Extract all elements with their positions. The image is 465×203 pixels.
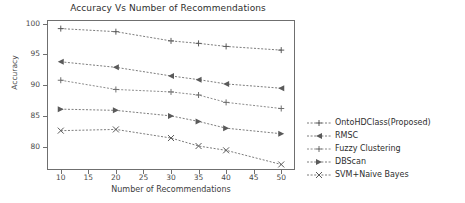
y-tick-label: 95 [16,49,40,58]
y-tick-label: 90 [16,80,40,89]
data-point-plus [278,106,284,112]
x-tick-label: 10 [51,173,71,182]
legend-item-svm-naive-bayes[interactable]: SVM+Naive Bayes [306,169,431,181]
x-tick-mark [226,170,227,174]
legend-label: OntoHDClass(Proposed) [335,117,431,129]
legend-marker-triangle-right [306,156,332,168]
series-line [61,129,281,164]
data-point-x-cross [58,128,64,134]
x-tick-mark [143,170,144,174]
y-tick-label: 85 [16,111,40,120]
data-point-plus [316,146,322,152]
data-point-x-cross [316,172,322,178]
x-tick-mark [116,170,117,174]
x-tick-label: 25 [133,173,153,182]
x-tick-mark [61,170,62,174]
x-tick-mark [281,170,282,174]
x-tick-label: 20 [106,173,126,182]
data-point-plus [278,47,284,53]
legend-label: DBScan [335,156,366,168]
legend-marker-triangle-left [306,130,332,142]
x-tick-label: 50 [271,173,291,182]
data-point-triangle-right [113,107,119,113]
x-tick-label: 35 [189,173,209,182]
x-tick-label: 15 [78,173,98,182]
data-point-triangle-right [278,131,284,137]
data-point-triangle-right [58,106,64,112]
data-point-triangle-right [223,125,229,131]
data-point-plus [168,38,174,44]
data-point-triangle-left [113,64,119,70]
data-point-plus [223,43,229,49]
y-tick-label: 80 [16,142,40,151]
data-point-plus [58,77,64,83]
data-point-triangle-right [316,159,322,165]
legend-item-rmsc[interactable]: RMSC [306,130,431,142]
legend-label: SVM+Naive Bayes [335,169,409,181]
x-tick-mark [88,170,89,174]
data-point-plus [223,99,229,105]
data-point-triangle-left [316,133,322,139]
legend-marker-x-cross [306,169,332,181]
data-point-x-cross [278,161,284,167]
legend-item-dbscan[interactable]: DBScan [306,156,431,168]
x-tick-mark [171,170,172,174]
data-point-x-cross [223,147,229,153]
data-point-triangle-left [223,81,229,87]
chart-legend: OntoHDClass(Proposed)RMSCFuzzy Clusterin… [303,115,434,183]
plot-area [47,20,295,170]
data-point-triangle-right [196,118,202,124]
data-point-plus [113,29,119,35]
data-point-plus [113,86,119,92]
data-point-triangle-left [58,59,64,65]
data-point-triangle-left [168,73,174,79]
data-point-x-cross [113,126,119,132]
chart-screenshot: Accuracy Vs Number of Recommendations Ac… [0,0,465,203]
data-point-triangle-left [196,77,202,83]
legend-label: RMSC [335,130,358,142]
chart-title: Accuracy Vs Number of Recommendations [38,3,298,13]
data-point-triangle-right [168,113,174,119]
x-tick-label: 45 [244,173,264,182]
legend-item-fuzzy-clustering[interactable]: Fuzzy Clustering [306,143,431,155]
y-tick-label: 100 [16,19,40,28]
legend-label: Fuzzy Clustering [335,143,401,155]
data-point-plus [58,26,64,32]
legend-marker-plus [306,143,332,155]
data-point-triangle-left [278,85,284,91]
x-tick-mark [199,170,200,174]
data-point-plus [316,120,322,126]
legend-marker-plus [306,117,332,129]
x-axis-label: Number of Recommendations [47,185,295,194]
data-point-plus [196,40,202,46]
x-tick-label: 30 [161,173,181,182]
series-lines [47,20,295,170]
data-point-plus [196,92,202,98]
x-tick-mark [254,170,255,174]
data-point-plus [168,89,174,95]
x-tick-label: 40 [216,173,236,182]
legend-item-ontohdclass-proposed[interactable]: OntoHDClass(Proposed) [306,117,431,129]
